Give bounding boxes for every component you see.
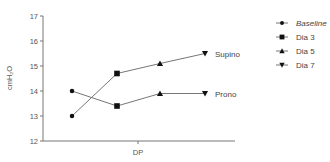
- legend-item: Baseline: [276, 19, 327, 28]
- y-tick-label: 16: [30, 37, 38, 46]
- legend-label: Dia 3: [296, 33, 315, 42]
- y-axis-title: cmH₂O: [5, 66, 14, 90]
- series-label-prono: Prono: [215, 90, 237, 99]
- legend-item: Dia 5: [276, 47, 315, 56]
- x-axis-title: DP: [133, 148, 143, 157]
- series-label-supino: Supino: [215, 50, 240, 59]
- circle-marker-icon: [70, 89, 74, 93]
- y-tick-label: 12: [30, 137, 38, 146]
- y-tick-label: 14: [30, 87, 38, 96]
- y-axis: 121314151617: [30, 12, 43, 146]
- legend-item: Dia 7: [276, 61, 315, 70]
- square-marker-icon: [280, 35, 285, 40]
- legend-label: Dia 5: [296, 47, 315, 56]
- y-tick-label: 17: [30, 12, 38, 21]
- circle-marker-icon: [280, 21, 284, 25]
- square-marker-icon: [114, 71, 120, 77]
- legend-label: Dia 7: [296, 61, 315, 70]
- series-prono: Prono: [70, 89, 237, 109]
- line-chart: 121314151617 cmH₂O DP SupinoProno Baseli…: [0, 0, 330, 162]
- legend: BaselineDia 3Dia 5Dia 7: [276, 19, 327, 70]
- y-tick-label: 13: [30, 112, 38, 121]
- series-group: SupinoProno: [70, 50, 241, 119]
- circle-marker-icon: [70, 114, 74, 118]
- series-supino: Supino: [70, 50, 241, 119]
- y-tick-label: 15: [30, 62, 38, 71]
- legend-label: Baseline: [296, 19, 327, 28]
- square-marker-icon: [114, 103, 120, 109]
- legend-item: Dia 3: [276, 33, 315, 42]
- x-axis: [43, 141, 235, 144]
